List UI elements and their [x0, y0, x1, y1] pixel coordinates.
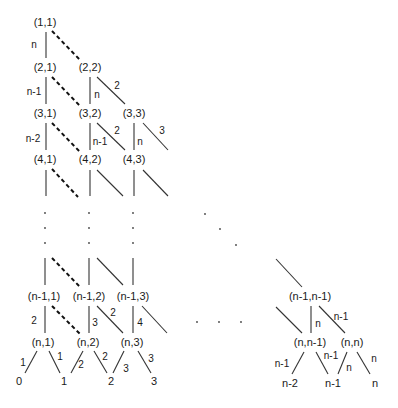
- lattice-diagram: (1,1) (2,1) (2,2) (3,1) (3,2) (3,3) (4,1…: [0, 0, 398, 408]
- edge-diagonal: [97, 77, 125, 104]
- nodes: (1,1) (2,1) (2,2) (3,1) (3,2) (3,3) (4,1…: [28, 16, 364, 348]
- leaf-label: n-2: [282, 377, 298, 389]
- node-label: (n-1,2): [73, 290, 105, 302]
- edge-label: 3: [123, 363, 129, 374]
- node-label: (n,1): [32, 336, 55, 348]
- edge-label: n: [315, 318, 321, 329]
- edge-label: 2: [31, 315, 37, 326]
- edge-label: 1: [57, 351, 63, 362]
- edge-label: 4: [137, 317, 143, 328]
- edge-diagonal: [276, 307, 302, 333]
- edge-leaf: [25, 351, 37, 373]
- node-label: (4,2): [79, 153, 102, 165]
- node-label: (2,2): [79, 61, 102, 73]
- edge-label: 2: [114, 125, 120, 136]
- edge-label: n: [346, 362, 352, 373]
- edge-diagonal: [97, 170, 123, 196]
- edge-leaf: [292, 352, 304, 374]
- edge-leaf: [357, 352, 370, 374]
- node-label: (3,2): [79, 107, 102, 119]
- edge-dashed: [52, 258, 80, 287]
- leaf-label: 3: [151, 375, 157, 387]
- edge-label: n-1: [324, 350, 339, 361]
- edge-label: n: [31, 39, 37, 50]
- edge-diagonal: [97, 258, 123, 285]
- node-label: (1,1): [34, 16, 57, 28]
- node-label: (n,2): [77, 336, 100, 348]
- node-label: (n,3): [121, 336, 144, 348]
- leaf-label: 0: [16, 375, 22, 387]
- edge-label: n: [371, 353, 377, 364]
- node-label: (n-1,n-1): [289, 290, 331, 302]
- edge-label: n-2: [26, 133, 41, 144]
- edge-label: 3: [159, 125, 165, 136]
- edge-label: n-1: [334, 311, 349, 322]
- node-label: (3,3): [123, 107, 146, 119]
- edge-label: n-1: [275, 358, 290, 369]
- edge-label: n: [137, 136, 143, 147]
- leaves: 0 1 2 3 n-2 n-1 n: [16, 375, 378, 389]
- edge-label: 2: [110, 307, 116, 318]
- leaf-label: n-1: [325, 377, 341, 389]
- diagram-canvas: (1,1) (2,1) (2,2) (3,1) (3,2) (3,3) (4,1…: [0, 0, 398, 408]
- edge-label: 2: [102, 351, 108, 362]
- node-label: (4,3): [123, 153, 146, 165]
- edge-diagonal: [276, 259, 302, 287]
- edge-dashed: [52, 306, 80, 334]
- edge-dashed: [52, 123, 80, 152]
- node-label: (2,1): [34, 61, 57, 73]
- leaf-label: n: [372, 377, 378, 389]
- edge-dashed: [52, 169, 78, 197]
- edge-diagonal: [142, 306, 167, 333]
- edge-labels: n n-1 n 2 n-2 n-1 2 n 3 2 3 2 4 1 1 2 2 …: [20, 39, 377, 374]
- node-label: (4,1): [34, 153, 57, 165]
- node-label: (n,n): [341, 336, 364, 348]
- node-label: (3,1): [34, 107, 57, 119]
- edge-label: 2: [114, 80, 120, 91]
- edge-diagonal: [143, 170, 168, 196]
- edge-label: n-1: [93, 136, 108, 147]
- node-label: (n-1,1): [28, 290, 60, 302]
- edge-label: 2: [78, 359, 84, 370]
- edge-label: 1: [20, 357, 26, 368]
- edge-label: 3: [148, 353, 154, 364]
- leaf-label: 1: [61, 375, 67, 387]
- edge-dashed: [52, 31, 80, 60]
- edge-label: n-1: [27, 86, 42, 97]
- edge-label: n: [94, 89, 100, 100]
- node-label: (n-1,3): [117, 290, 149, 302]
- edge-label: 3: [92, 317, 98, 328]
- leaf-label: 2: [108, 375, 114, 387]
- node-label: (n,n-1): [294, 336, 326, 348]
- edge-dashed: [52, 77, 80, 106]
